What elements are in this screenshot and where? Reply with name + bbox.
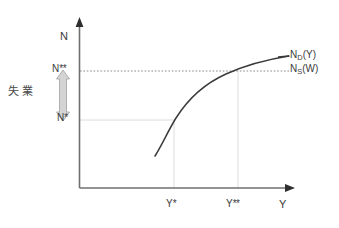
x-tick-y-doublestar-sup: ** [233,198,240,209]
x-axis-arrowhead [285,184,295,192]
x-tick-label-y-doublestar: Y** [226,199,239,209]
figure-canvas [0,0,339,228]
y-tick-n-doublestar-sup: ** [59,63,66,74]
legend-label-labour-supply: NS(W) [290,64,318,74]
legend-label-labour-demand: ND(Y) [290,50,316,60]
x-tick-label-y-star: Y* [166,199,176,209]
unemployment-annotation-label: 失業 [8,86,36,97]
chart-svg [0,0,339,228]
legend-demand-arg: (Y) [303,49,316,60]
x-tick-y-doublestar-base: Y [226,198,233,209]
legend-supply-subscript: S [297,67,302,76]
y-axis-arrowhead [76,17,84,27]
y-axis-label: N [60,31,68,42]
legend-demand-subscript: D [297,53,302,62]
x-tick-y-star-sup: * [173,198,176,209]
x-tick-y-star-base: Y [166,198,173,209]
y-tick-label-n-doublestar: N** [52,64,66,74]
legend-supply-arg: (W) [302,63,318,74]
labour-demand-curve [155,56,289,156]
y-tick-n-star-sup: * [64,112,67,123]
legend-connector-demand [278,56,289,57]
y-tick-label-n-star: N* [57,113,68,123]
x-axis-label: Y [279,199,286,210]
